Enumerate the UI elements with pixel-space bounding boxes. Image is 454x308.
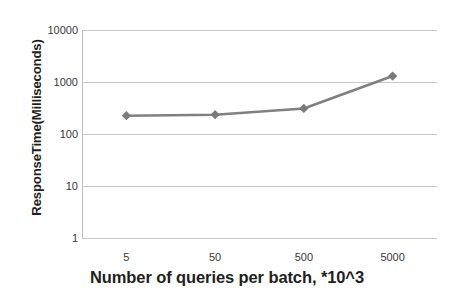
data-point-5000 — [388, 71, 397, 80]
y-axis-tick-labels: 100001000100101 — [24, 0, 78, 308]
y-tick-label-10: 10 — [24, 181, 78, 192]
x-axis-title: Number of queries per batch, *10^3 — [0, 268, 454, 287]
x-axis-tick-labels: 5505005000 — [82, 251, 437, 267]
data-point-5 — [122, 111, 131, 120]
y-tick-label-1: 1 — [24, 233, 78, 244]
y-tick-label-1000: 1000 — [24, 77, 78, 88]
series-line — [126, 76, 392, 116]
x-tick-label-5: 5 — [91, 251, 161, 263]
x-tick-label-50: 50 — [180, 251, 250, 263]
x-tick-label-5000: 5000 — [358, 251, 428, 263]
gridline-1 — [82, 238, 437, 239]
x-tick-label-500: 500 — [269, 251, 339, 263]
series-line-response-time — [82, 30, 437, 238]
data-point-500 — [299, 104, 308, 113]
y-tick-label-100: 100 — [24, 129, 78, 140]
response-time-line-chart: ResponseTime(Milliseconds) 1000010001001… — [0, 0, 454, 308]
data-point-50 — [211, 110, 220, 119]
plot-area — [82, 30, 437, 238]
y-tick-label-10000: 10000 — [24, 25, 78, 36]
